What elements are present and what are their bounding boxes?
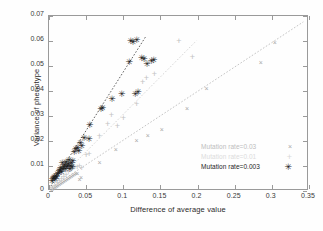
x-axis-title: Difference of average value bbox=[48, 205, 308, 214]
legend-label: Mutation rate=0.01 bbox=[201, 153, 256, 160]
x-tick-top bbox=[309, 16, 310, 20]
y-tick bbox=[49, 41, 53, 42]
y-tick bbox=[49, 166, 53, 167]
y-tick bbox=[49, 66, 53, 67]
x-tick bbox=[49, 185, 50, 189]
cross-marker-icon: × bbox=[288, 142, 292, 152]
x-tick-label: 0.05 bbox=[78, 192, 92, 199]
x-tick-label: 0 bbox=[46, 192, 50, 199]
x-tick bbox=[160, 185, 161, 189]
legend: Mutation rate=0.03 × Mutation rate=0.01 … bbox=[201, 143, 293, 173]
x-tick bbox=[309, 185, 310, 189]
trend-line bbox=[49, 41, 196, 189]
y-tick-right bbox=[303, 66, 307, 67]
legend-label: Mutation rate=0.03 bbox=[201, 143, 256, 150]
y-tick-right bbox=[303, 141, 307, 142]
y-tick bbox=[49, 16, 53, 17]
y-tick bbox=[49, 91, 53, 92]
x-tick-label: 0.3 bbox=[266, 192, 276, 199]
y-tick bbox=[49, 116, 53, 117]
y-tick-right bbox=[303, 116, 307, 117]
x-tick-top bbox=[86, 16, 87, 20]
trend-line bbox=[49, 36, 146, 189]
x-tick-top bbox=[235, 16, 236, 20]
plus-marker-icon: + bbox=[287, 152, 292, 162]
legend-entry-mutation-rate-001: Mutation rate=0.01 + bbox=[201, 153, 293, 163]
y-tick bbox=[49, 141, 53, 142]
y-tick-right bbox=[303, 91, 307, 92]
legend-entry-mutation-rate-0003: Mutation rate=0.003 ✳ bbox=[201, 163, 293, 173]
y-axis-title: Variance of phenotype bbox=[32, 23, 41, 193]
x-tick bbox=[86, 185, 87, 189]
x-tick-top bbox=[123, 16, 124, 20]
x-tick bbox=[235, 185, 236, 189]
legend-label: Mutation rate=0.003 bbox=[201, 163, 260, 170]
x-tick-label: 0.1 bbox=[117, 192, 127, 199]
x-tick bbox=[198, 185, 199, 189]
x-tick-label: 0.35 bbox=[301, 192, 315, 199]
y-tick-right bbox=[303, 16, 307, 17]
scatter-plot-figure: ×××××××××××××××××××××××××××××+++++++++++… bbox=[0, 0, 323, 231]
legend-entry-mutation-rate-003: Mutation rate=0.03 × bbox=[201, 143, 293, 153]
asterisk-marker-icon: ✳ bbox=[284, 162, 292, 172]
y-tick-right bbox=[303, 166, 307, 167]
x-tick-top bbox=[198, 16, 199, 20]
x-tick bbox=[123, 185, 124, 189]
x-tick-top bbox=[272, 16, 273, 20]
x-tick-label: 0.15 bbox=[152, 192, 166, 199]
x-tick-top bbox=[160, 16, 161, 20]
y-tick-right bbox=[303, 41, 307, 42]
x-tick-label: 0.2 bbox=[192, 192, 202, 199]
x-tick bbox=[272, 185, 273, 189]
x-tick-label: 0.25 bbox=[227, 192, 241, 199]
